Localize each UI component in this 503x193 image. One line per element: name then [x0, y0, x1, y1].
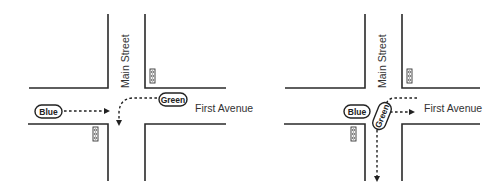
traffic-light-icon: [150, 69, 155, 83]
car-green: Green: [159, 93, 187, 106]
first-avenue-label: First Avenue: [195, 102, 253, 114]
car-blue: Blue: [35, 105, 62, 118]
svg-text:Green: Green: [161, 95, 186, 105]
main-street-label: Main Street: [119, 34, 131, 88]
first-avenue-label: First Avenue: [424, 102, 482, 114]
car-blue: Blue: [344, 105, 370, 118]
svg-text:Blue: Blue: [39, 107, 58, 117]
svg-text:Blue: Blue: [348, 107, 367, 117]
traffic-light-icon: [407, 69, 412, 83]
traffic-light-icon: [93, 127, 98, 141]
traffic-light-icon: [351, 127, 356, 141]
main-street-label: Main Street: [376, 34, 388, 88]
green-path-arrow: [119, 98, 157, 124]
right-panel: Main Street First Avenue Blue Green: [284, 14, 482, 181]
intersection-diagram: Main Street First Avenue Blue Green: [0, 0, 503, 193]
left-panel: Main Street First Avenue Blue Green: [28, 14, 253, 181]
green-approach-path: [386, 98, 417, 104]
car-green: Green: [371, 101, 394, 132]
